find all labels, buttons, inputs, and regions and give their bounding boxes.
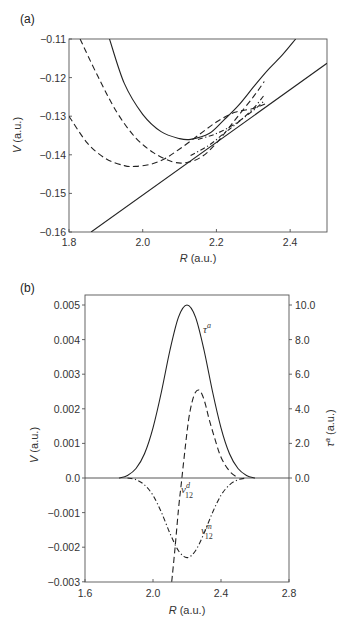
panel-b-label: (b): [20, 281, 35, 295]
panel-b-frame: [85, 295, 289, 582]
panel-b-x-axis-title: R (a.u.): [169, 604, 206, 616]
right-y-tick-label: 2.0: [295, 437, 310, 449]
y-tick-label: 0.0: [65, 472, 80, 484]
y-tick-label: −0.12: [39, 72, 66, 84]
panel-b-right-axis-title: τa (a.u.): [323, 409, 336, 446]
y-tick-label: 0.001: [54, 437, 80, 449]
x-tick-label: 2.2: [209, 236, 224, 248]
y-tick-label: −0.13: [39, 110, 66, 122]
curve--a: [119, 305, 255, 478]
curve-diabatic-1: [80, 39, 264, 163]
y-tick-label: −0.16: [39, 226, 66, 238]
panel-a-x-axis-title: R (a.u.): [180, 252, 217, 264]
y-tick-label: −0.001: [48, 507, 81, 519]
right-y-tick-label: 10.0: [295, 299, 316, 311]
x-tick-label: 2.0: [135, 236, 150, 248]
curve-diabatic-2: [69, 103, 268, 167]
y-tick-label: −0.14: [39, 149, 66, 161]
right-y-tick-label: 6.0: [295, 368, 310, 380]
y-tick-label: −0.15: [39, 187, 66, 199]
x-tick-label: 2.4: [283, 236, 298, 248]
figure: (a) (b) 1.82.02.22.4−0.11−0.12−0.13−0.14…: [0, 0, 345, 628]
v12-m-label: vm12: [201, 522, 213, 541]
panel-b-plot: 1.62.02.42.80.0050.0040.0030.0020.0010.0…: [28, 295, 336, 616]
y-tick-label: −0.003: [48, 576, 81, 588]
y-tick-label: −0.11: [40, 33, 66, 45]
panel-b-y-axis-title: V (a.u.): [28, 427, 40, 463]
right-y-tick-label: 0.0: [295, 472, 310, 484]
curve-upper-adiabatic: [110, 39, 296, 140]
panel-a-y-axis-title: V (a.u.): [11, 117, 23, 153]
y-tick-label: 0.005: [54, 299, 80, 311]
panel-a-label: (a): [20, 12, 35, 26]
panel-a-ticks: 1.82.02.22.4−0.11−0.12−0.13−0.14−0.15−0.…: [39, 33, 297, 248]
panel-b-curves: [119, 305, 255, 582]
v12-d-label: vd12: [181, 481, 193, 500]
y-tick-label: −0.002: [48, 541, 81, 553]
y-tick-label: 0.004: [54, 334, 80, 346]
panel-a-plot: 1.82.02.22.4−0.11−0.12−0.13−0.14−0.15−0.…: [11, 33, 327, 264]
right-y-tick-label: 4.0: [295, 403, 310, 415]
y-tick-label: 0.003: [54, 368, 80, 380]
x-tick-label: 2.4: [214, 587, 229, 599]
curve-dash-dot-2: [191, 95, 265, 156]
x-tick-label: 2.8: [282, 587, 297, 599]
y-tick-label: 0.002: [54, 403, 80, 415]
right-y-tick-label: 8.0: [295, 334, 310, 346]
tau-a-label: τa: [203, 321, 211, 335]
panel-a-curves: [69, 39, 327, 232]
panel-a-frame: [69, 39, 327, 232]
x-tick-label: 2.0: [146, 587, 161, 599]
x-tick-label: 1.6: [78, 587, 93, 599]
